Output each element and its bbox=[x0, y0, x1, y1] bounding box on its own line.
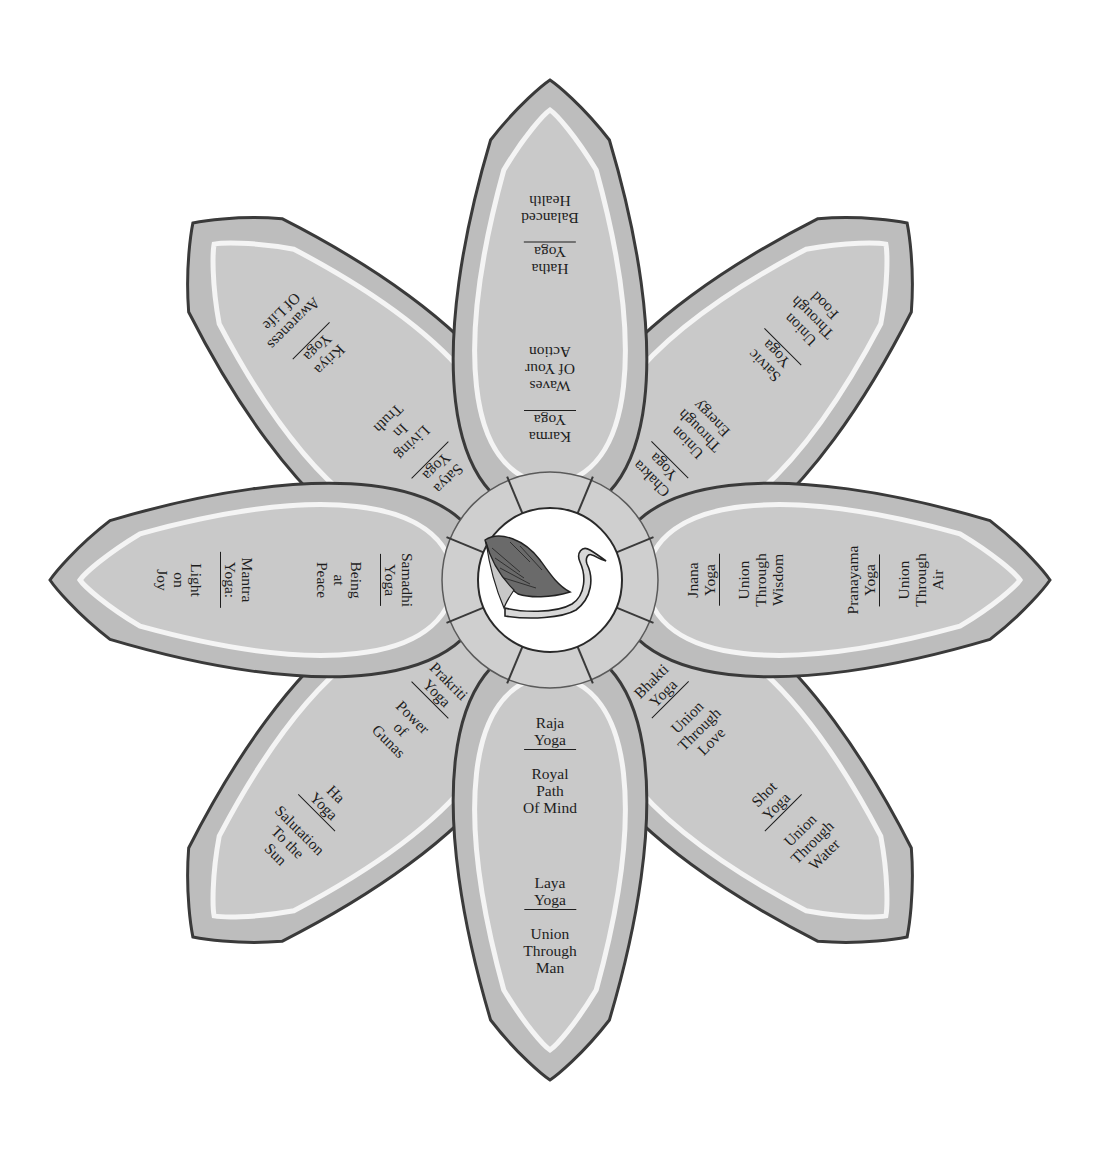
yoga-name: Mantra bbox=[239, 558, 256, 603]
yoga-name: Jnana bbox=[684, 562, 701, 597]
petal-left bbox=[50, 483, 490, 677]
yoga-name: Karma bbox=[529, 429, 571, 446]
yoga-name: Raja bbox=[536, 714, 564, 731]
yoga-name: Laya bbox=[535, 874, 566, 891]
meaning-line: Air bbox=[929, 570, 946, 591]
petal-up bbox=[453, 80, 647, 520]
meaning-line: Health bbox=[529, 193, 570, 210]
lotus-diagram: KarmaYogaWavesOf YourActionHathaYogaBala… bbox=[0, 0, 1099, 1154]
petal-right bbox=[610, 483, 1050, 677]
meaning-line: Man bbox=[536, 959, 564, 976]
yoga-name: Samadhi bbox=[399, 553, 416, 607]
meaning-line: Union bbox=[531, 925, 570, 942]
yoga-label: Yoga bbox=[524, 242, 576, 261]
meaning-line: Of Your bbox=[525, 361, 575, 378]
yoga-name: Pranayama bbox=[844, 546, 861, 615]
yoga-label: Yoga bbox=[524, 410, 576, 429]
meaning-line: Light bbox=[188, 563, 205, 597]
meaning-line: Through bbox=[752, 553, 769, 606]
meaning-line: Union bbox=[895, 561, 912, 600]
meaning-line: Wisdom bbox=[769, 554, 786, 606]
yoga-label: Yoga bbox=[861, 554, 880, 606]
yoga-label: Yoga: bbox=[220, 552, 239, 608]
meaning-line: Being bbox=[348, 561, 365, 598]
meaning-line: Royal bbox=[531, 765, 568, 782]
meaning-line: at bbox=[331, 574, 348, 585]
meaning-line: Waves bbox=[530, 378, 571, 395]
meaning-line: Union bbox=[735, 561, 752, 600]
meaning-line: Peace bbox=[314, 562, 331, 598]
petal-down bbox=[453, 640, 647, 1080]
meaning-line: on bbox=[171, 572, 188, 588]
yoga-label: Yoga bbox=[524, 731, 576, 750]
meaning-line: Of Mind bbox=[523, 799, 577, 816]
meaning-line: Through bbox=[523, 942, 576, 959]
meaning-line: Path bbox=[536, 782, 564, 799]
yoga-label: Yoga bbox=[380, 554, 399, 606]
meaning-line: Joy bbox=[154, 569, 171, 591]
yoga-label: Yoga bbox=[524, 891, 576, 910]
meaning-line: Action bbox=[529, 344, 571, 361]
yoga-name: Hatha bbox=[531, 261, 568, 278]
meaning-line: Balanced bbox=[521, 210, 579, 227]
meaning-line: Through bbox=[912, 553, 929, 606]
center-emblem bbox=[478, 508, 622, 652]
yoga-label: Yoga bbox=[701, 554, 720, 606]
